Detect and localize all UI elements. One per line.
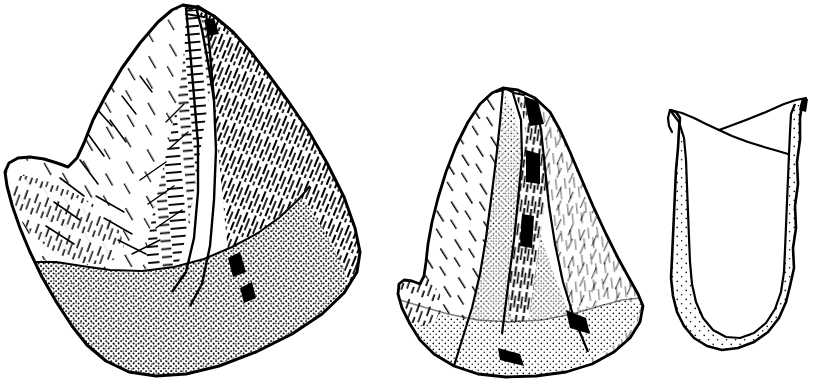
lithic-drawing-canvas: [0, 0, 831, 380]
illustration-plate: [0, 0, 831, 380]
